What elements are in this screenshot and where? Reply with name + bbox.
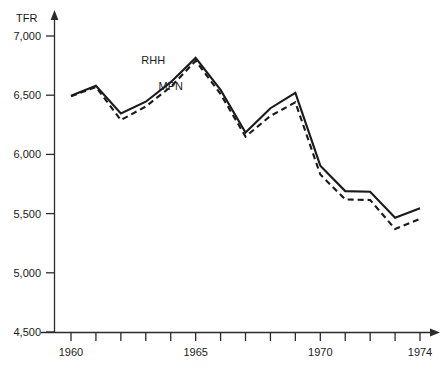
y-tick-label: 5,500 <box>13 208 41 220</box>
tfr-line-chart: TFR 4,5005,0005,5006,0006,5007,000 19601… <box>0 0 446 377</box>
y-tick-label: 7,000 <box>13 30 41 42</box>
x-axis-ticks: 1960196519701974 <box>59 333 433 359</box>
x-tick-label: 1974 <box>408 346 432 358</box>
series-label-mpn: MPN <box>158 80 183 92</box>
x-axis-arrow-icon <box>430 329 440 337</box>
y-tick-label: 4,500 <box>13 326 41 338</box>
y-tick-label: 5,000 <box>13 267 41 279</box>
x-tick-label: 1960 <box>59 346 83 358</box>
y-axis-ticks: 4,5005,0005,5006,0006,5007,000 <box>13 30 55 338</box>
y-axis-title: TFR <box>16 12 37 24</box>
y-tick-label: 6,500 <box>13 89 41 101</box>
x-axis <box>41 329 440 337</box>
x-tick-label: 1965 <box>183 346 207 358</box>
y-axis-arrow-icon <box>51 10 59 20</box>
series-label-rhh: RHH <box>141 54 165 66</box>
y-axis <box>51 10 59 332</box>
series-line-mpn <box>71 61 420 229</box>
x-tick-label: 1970 <box>308 346 332 358</box>
data-series-group <box>71 58 420 229</box>
y-tick-label: 6,000 <box>13 148 41 160</box>
series-labels-group: RHHMPN <box>141 54 183 92</box>
chart-canvas: TFR 4,5005,0005,5006,0006,5007,000 19601… <box>0 0 446 377</box>
